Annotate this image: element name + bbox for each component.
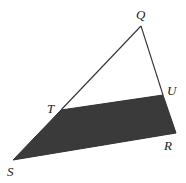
label-s: S	[7, 164, 14, 179]
label-q: Q	[136, 7, 146, 22]
label-u: U	[167, 83, 178, 98]
segment-qt	[61, 26, 141, 110]
segment-qu	[141, 26, 163, 95]
label-r: R	[163, 138, 172, 153]
label-t: T	[47, 101, 55, 116]
shaded-quadrilateral-turs	[13, 95, 176, 160]
geometry-diagram: Q U R T S	[0, 0, 186, 183]
